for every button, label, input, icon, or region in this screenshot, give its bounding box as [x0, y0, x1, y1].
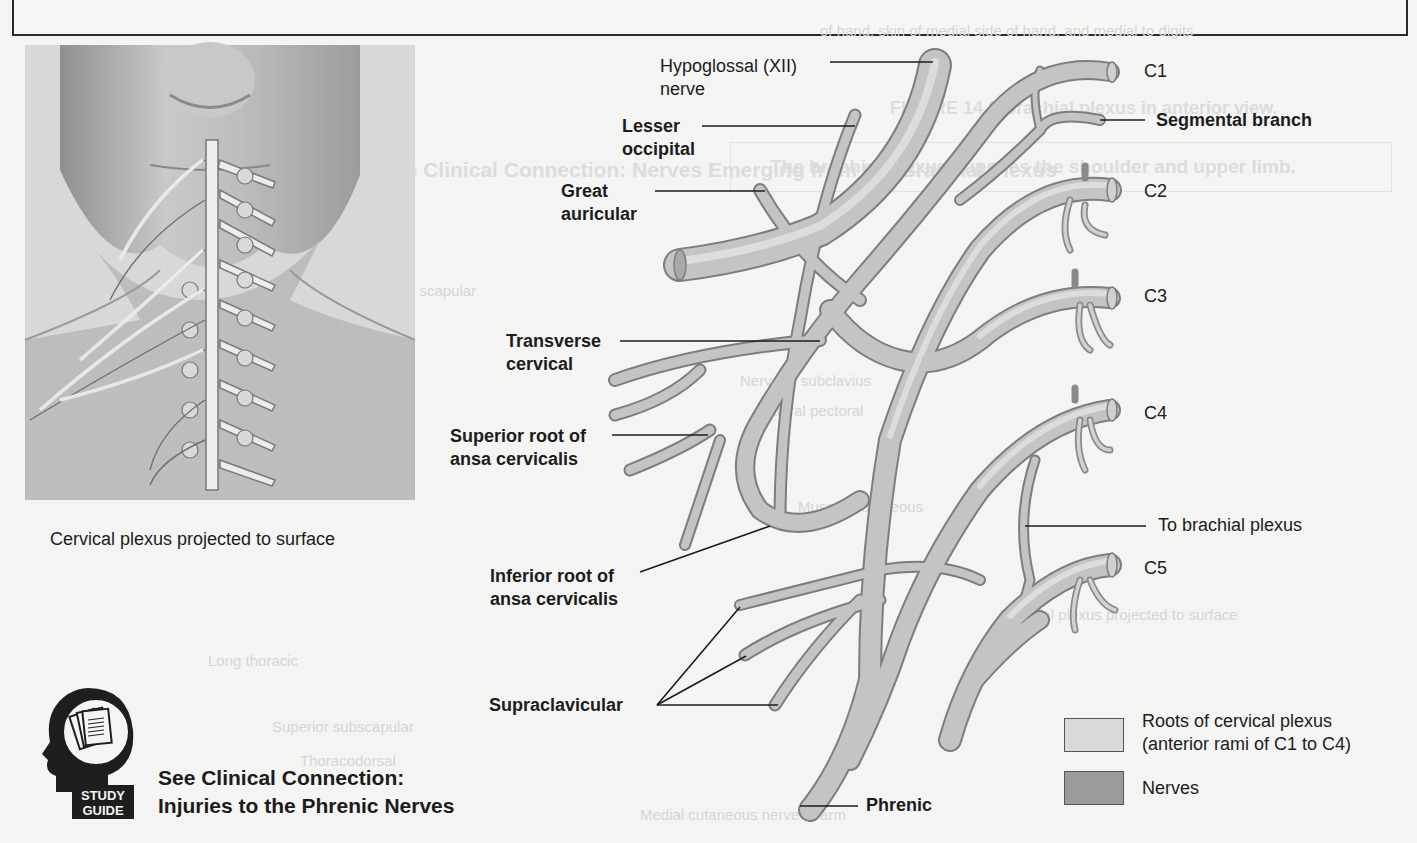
label-transverse-cervical: Transverse cervical: [506, 330, 601, 376]
label-c4: C4: [1144, 402, 1167, 425]
label-c2: C2: [1144, 180, 1167, 203]
badge-line1: STUDY: [81, 788, 125, 803]
label-inferior-root: Inferior root of ansa cervicalis: [490, 565, 618, 611]
legend-swatch-roots: [1064, 718, 1124, 752]
head-neck-illustration: [25, 42, 415, 500]
label-lesser-occipital: Lesser occipital: [622, 115, 695, 161]
label-superior-root: Superior root of ansa cervicalis: [450, 425, 586, 471]
label-phrenic: Phrenic: [866, 794, 932, 817]
label-to-brachial-plexus: To brachial plexus: [1158, 514, 1302, 537]
legend-swatch-nerves: [1064, 771, 1124, 805]
label-great-auricular: Great auricular: [561, 180, 637, 226]
label-hypoglossal: Hypoglossal (XII) nerve: [660, 55, 797, 101]
legend-label-roots: Roots of cervical plexus (anterior rami …: [1142, 710, 1351, 756]
figure-caption: Cervical plexus projected to surface: [50, 529, 335, 550]
study-guide-icon[interactable]: STUDY GUIDE: [38, 680, 148, 820]
legend-label-nerves: Nerves: [1142, 777, 1199, 800]
label-segmental-branch: Segmental branch: [1156, 109, 1312, 132]
label-c3: C3: [1144, 285, 1167, 308]
label-c5: C5: [1144, 557, 1167, 580]
label-c1: C1: [1144, 60, 1167, 83]
badge-line2: GUIDE: [82, 803, 124, 818]
label-supraclavicular: Supraclavicular: [489, 694, 623, 717]
nerve-network: [615, 62, 1117, 810]
clinical-connection-link[interactable]: See Clinical Connection: Injuries to the…: [158, 764, 454, 820]
